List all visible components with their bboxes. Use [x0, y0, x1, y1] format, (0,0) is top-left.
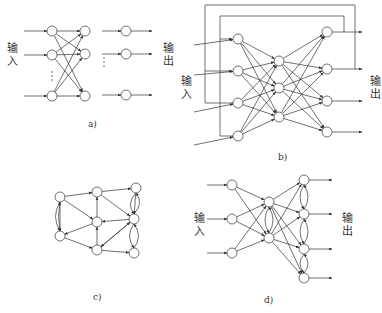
connection-arrow: [284, 62, 322, 68]
feedback-arrow: [300, 219, 304, 244]
neuron-node: [299, 273, 309, 283]
connection-arrow: [65, 238, 93, 248]
panel-d-input-label: 输 入: [193, 212, 205, 238]
neuron-node: [47, 26, 57, 36]
connection-arrow: [102, 189, 131, 192]
neuron-node: [55, 231, 65, 241]
connection-arrow: [102, 219, 129, 221]
connection-arrow: [65, 193, 92, 197]
connection-arrow: [194, 71, 233, 75]
feedback-arrow: [304, 254, 308, 273]
neuron-node: [47, 50, 57, 60]
connection-arrow: [240, 65, 276, 131]
ellipsis-dot: [103, 57, 104, 58]
neuron-node: [47, 91, 57, 101]
connection-arrow: [57, 54, 80, 55]
neuron-node: [55, 192, 65, 202]
connection-arrow: [243, 73, 275, 86]
connection-arrow: [194, 137, 233, 145]
feedback-arrow: [269, 207, 273, 233]
neuron-node: [233, 66, 243, 76]
neuron-node: [264, 197, 274, 207]
neuron-node: [121, 49, 131, 59]
panel-d-caption: d): [264, 295, 273, 305]
neuron-node: [233, 34, 243, 44]
neuron-node: [92, 217, 102, 227]
panel-b-output-label: 输 出: [369, 75, 381, 101]
neuron-node: [227, 180, 237, 190]
neuron-node: [264, 233, 274, 243]
connection-arrow: [274, 204, 300, 213]
neuron-node: [121, 26, 131, 36]
panel-a-feedforward-network: [24, 26, 152, 101]
neural-network-diagrams: [0, 0, 382, 313]
ellipsis-dot: [51, 79, 52, 80]
neuron-node: [233, 98, 243, 108]
neuron-node: [80, 26, 90, 36]
connection-arrow: [273, 183, 300, 200]
ellipsis-dot: [51, 75, 52, 76]
ellipsis-dot: [103, 61, 104, 62]
feedback-arrow: [304, 219, 308, 244]
panel-c-caption: c): [93, 292, 102, 302]
connection-arrow: [237, 204, 265, 217]
neuron-node: [92, 245, 102, 255]
connection-arrow: [101, 222, 130, 247]
connection-arrow: [194, 40, 233, 45]
panel-c-interconnected-network: [55, 183, 141, 258]
feedback-arrow: [130, 224, 135, 248]
connection-arrow: [101, 195, 130, 216]
neuron-node: [274, 83, 284, 93]
neuron-node: [299, 244, 309, 254]
neuron-node: [92, 187, 102, 197]
connection-arrow: [194, 104, 233, 112]
feedback-arrow: [300, 185, 304, 209]
connection-arrow: [134, 193, 135, 214]
connection-arrow: [236, 221, 264, 235]
neuron-node: [299, 209, 309, 219]
connection-arrow: [243, 119, 275, 134]
connection-arrow: [64, 200, 93, 219]
neuron-node: [129, 248, 139, 258]
neuron-node: [227, 214, 237, 224]
neuron-node: [121, 90, 131, 100]
neuron-node: [322, 64, 332, 74]
connection-arrow: [283, 35, 322, 59]
connection-arrow: [284, 71, 323, 86]
panel-a-output-label: 输 出: [162, 42, 174, 68]
connection-arrow: [237, 240, 265, 251]
connection-arrow: [284, 103, 323, 116]
connection-arrow: [282, 36, 323, 84]
panel-d-output-label: 输 出: [341, 212, 353, 238]
panel-a-caption: a): [88, 119, 97, 129]
neuron-node: [227, 248, 237, 258]
connection-arrow: [65, 224, 93, 234]
neuron-node: [274, 112, 284, 122]
neuron-node: [80, 91, 90, 101]
neuron-node: [299, 175, 309, 185]
panel-d-hybrid-network: [207, 175, 332, 283]
neuron-node: [274, 56, 284, 66]
panel-b-caption: b): [278, 152, 287, 162]
ellipsis-dot: [51, 71, 52, 72]
panel-a-input-label: 输 入: [6, 42, 18, 68]
neuron-node: [131, 183, 141, 193]
neuron-node: [80, 49, 90, 59]
neuron-node: [233, 131, 243, 141]
neuron-node: [129, 214, 139, 224]
feedback-arrow: [265, 207, 269, 233]
connection-arrow: [102, 250, 129, 252]
feedback-arrow: [304, 185, 308, 209]
neuron-node: [322, 127, 332, 137]
panel-b-feedback-network: [194, 5, 362, 145]
panel-b-input-label: 输 入: [180, 75, 192, 101]
neuron-node: [322, 96, 332, 106]
ellipsis-dot: [103, 65, 104, 66]
connection-arrow: [284, 118, 322, 130]
feedback-arrow: [134, 224, 139, 248]
neuron-node: [322, 27, 332, 37]
connection-arrow: [240, 43, 276, 112]
